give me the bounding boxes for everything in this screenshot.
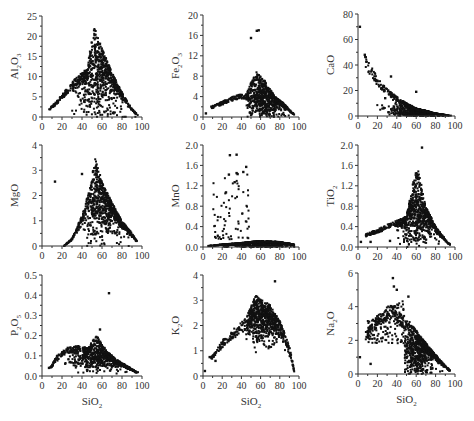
x-tick-label: 80 <box>117 121 127 132</box>
data-points <box>54 158 138 247</box>
panel-mno: 0.00.40.81.21.62.0020406080100MnO <box>169 140 307 263</box>
x-tick-label: 100 <box>292 121 307 132</box>
y-axis-label: MnO <box>169 184 181 207</box>
x-tick-label: 0 <box>40 250 45 261</box>
y-tick-label: 2 <box>193 320 198 331</box>
y-tick-label: 20 <box>343 85 353 96</box>
x-tick-label: 20 <box>217 121 227 132</box>
x-tick-label: 0 <box>201 380 206 391</box>
x-tick-label: 20 <box>57 121 67 132</box>
data-points <box>205 29 295 118</box>
x-tick-label: 100 <box>135 121 150 132</box>
y-tick-label: 0.4 <box>341 221 354 232</box>
x-tick-label: 0 <box>356 251 361 262</box>
y-tick-label: 0 <box>348 111 353 122</box>
y-tick-label: 0.0 <box>25 371 38 382</box>
y-tick-label: 0 <box>32 241 37 252</box>
y-tick-label: 0.4 <box>25 290 38 301</box>
x-tick-label: 80 <box>275 251 285 262</box>
x-tick-label: 100 <box>448 120 463 131</box>
x-tick-label: 40 <box>236 251 246 262</box>
panel-tio2: 0.00.40.81.21.62.0020406080100TiO2 <box>324 140 463 263</box>
y-tick-label: 0.8 <box>186 201 199 212</box>
x-tick-label: 40 <box>236 121 246 132</box>
x-tick-label: 0 <box>201 251 206 262</box>
x-tick-label: 80 <box>117 380 127 391</box>
x-tick-label: 100 <box>135 380 150 391</box>
y-tick-label: 3 <box>32 165 37 176</box>
x-tick-label: 40 <box>236 380 246 391</box>
y-tick-label: 10 <box>27 71 37 82</box>
x-tick-label: 100 <box>448 378 463 389</box>
y-tick-label: 15 <box>27 51 37 62</box>
y-tick-label: 20 <box>188 10 198 21</box>
y-tick-label: 2.0 <box>186 140 199 151</box>
x-tick-label: 0 <box>201 121 206 132</box>
x-tick-label: 60 <box>256 251 266 262</box>
x-tick-label: 20 <box>57 250 67 261</box>
y-tick-label: 16 <box>188 30 198 41</box>
x-tick-label: 20 <box>372 378 382 389</box>
x-tick-label: 0 <box>356 378 361 389</box>
x-tick-label: 80 <box>431 378 441 389</box>
y-tick-label: 0.0 <box>341 242 354 253</box>
y-tick-label: 3 <box>193 295 198 306</box>
y-axis-label: CaO <box>324 55 336 75</box>
x-tick-label: 40 <box>392 120 402 131</box>
y-tick-label: 2 <box>348 335 353 346</box>
y-tick-label: 0.5 <box>25 270 38 281</box>
y-tick-label: 4 <box>193 270 198 281</box>
x-tick-label: 60 <box>256 121 266 132</box>
y-tick-label: 0 <box>193 112 198 123</box>
x-tick-label: 40 <box>392 251 402 262</box>
x-tick-label: 0 <box>356 120 361 131</box>
y-axis-label: K2O <box>169 316 184 335</box>
x-axis-title: SiO2 <box>82 395 103 410</box>
y-axis-label: TiO2 <box>324 185 339 206</box>
x-tick-label: 100 <box>448 251 463 262</box>
x-tick-label: 80 <box>431 120 441 131</box>
x-tick-label: 20 <box>217 251 227 262</box>
y-tick-label: 0.8 <box>341 201 354 212</box>
y-tick-label: 1.6 <box>341 160 354 171</box>
y-tick-label: 1 <box>32 215 37 226</box>
x-tick-label: 80 <box>275 380 285 391</box>
x-tick-label: 80 <box>275 121 285 132</box>
data-points <box>204 280 296 372</box>
y-tick-label: 0 <box>348 369 353 380</box>
data-points <box>208 154 296 249</box>
y-axis-label: Fe2O3 <box>169 53 184 79</box>
x-tick-label: 0 <box>40 121 45 132</box>
y-tick-label: 4 <box>193 91 198 102</box>
x-tick-label: 20 <box>217 380 227 391</box>
y-tick-label: 1.6 <box>186 160 199 171</box>
x-tick-label: 80 <box>117 250 127 261</box>
x-tick-label: 80 <box>431 251 441 262</box>
panel-al2o3: 0510152025020406080100Al2O3 <box>8 11 150 133</box>
y-tick-label: 0 <box>193 371 198 382</box>
x-tick-label: 40 <box>77 250 87 261</box>
y-tick-label: 4 <box>348 301 353 312</box>
y-axis-label: Al2O3 <box>8 53 23 79</box>
x-tick-label: 60 <box>97 121 107 132</box>
x-tick-label: 20 <box>372 120 382 131</box>
y-tick-label: 4 <box>32 140 37 151</box>
x-tick-label: 60 <box>97 380 107 391</box>
x-tick-label: 100 <box>292 380 307 391</box>
panel-k2o: 01234020406080100K2OSiO2 <box>169 270 307 411</box>
data-points <box>48 28 139 118</box>
x-tick-label: 60 <box>411 120 421 131</box>
x-tick-label: 60 <box>256 380 266 391</box>
y-tick-label: 0.4 <box>186 221 199 232</box>
y-tick-label: 2 <box>32 190 37 201</box>
x-tick-label: 60 <box>411 251 421 262</box>
y-axis-label: Na2O <box>324 311 339 335</box>
data-points <box>48 292 139 375</box>
panel-fe2o3: 048121620020406080100Fe2O3 <box>169 10 307 133</box>
panel-mgo: 01234020406080100MgO <box>8 140 150 262</box>
x-tick-label: 40 <box>77 121 87 132</box>
y-tick-label: 0.3 <box>25 310 38 321</box>
y-tick-label: 0.2 <box>25 330 38 341</box>
y-tick-label: 1.2 <box>341 180 354 191</box>
y-tick-label: 12 <box>188 50 198 61</box>
